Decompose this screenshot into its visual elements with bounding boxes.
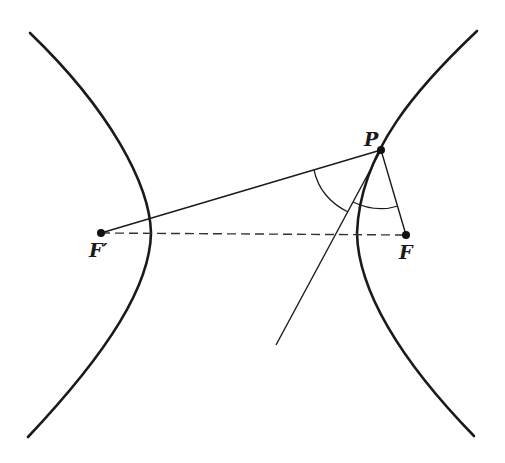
left-branch [28,33,151,437]
focal-axis [101,233,406,235]
label-p: P [363,128,379,150]
point-f [402,231,410,239]
angle-arc-left [314,170,348,212]
tangent-line [276,150,381,345]
point-f-prime [97,229,105,237]
label-f: F [398,241,414,263]
right-branch [357,31,477,436]
hyperbola-diagram: P F F′ [0,0,505,463]
segment-p-f [381,150,406,235]
label-f-prime: F′ [88,239,108,261]
